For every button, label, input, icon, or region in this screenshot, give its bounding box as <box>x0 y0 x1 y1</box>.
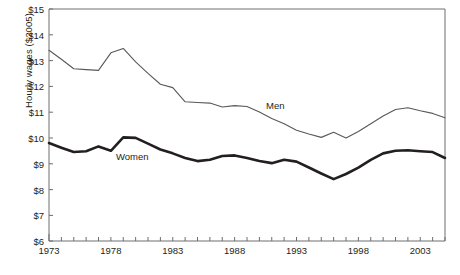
x-tick-label: 1988 <box>215 246 255 256</box>
women-series-label: Women <box>116 152 149 162</box>
x-tick-label: 1978 <box>91 246 131 256</box>
x-tick-label: 1993 <box>277 246 317 256</box>
wage-trend-chart: Hourly wages ($2005) $15 $14 $13 $12 $11… <box>0 0 460 275</box>
x-tick-label: 1973 <box>29 246 69 256</box>
chart-canvas <box>0 0 460 275</box>
men-series-label: Men <box>266 101 284 111</box>
x-tick-label: 2003 <box>400 246 440 256</box>
plot-area-background <box>49 9 445 241</box>
x-tick-label: 1983 <box>153 246 193 256</box>
x-tick-label: 1998 <box>338 246 378 256</box>
